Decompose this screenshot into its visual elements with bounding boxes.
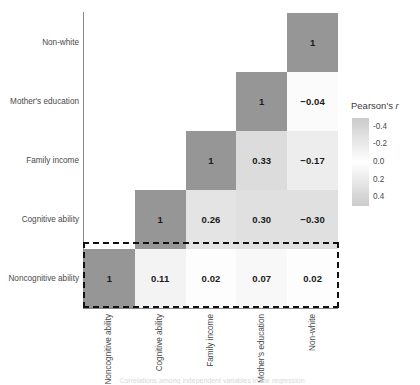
- heatmap-cell-value: 1: [208, 156, 213, 166]
- heatmap-cell: 1: [186, 131, 237, 190]
- legend-tick-label: 0.4: [373, 193, 384, 201]
- heatmap-cell: 0.11: [135, 249, 186, 308]
- y-axis-tick-label: Cognitive ability: [22, 216, 79, 224]
- x-axis-labels: Noncognitive abilityCognitive abilityFam…: [84, 312, 338, 382]
- heatmap-cell: 0.33: [236, 131, 287, 190]
- heatmap-cell: 1: [236, 72, 287, 131]
- heatmap-cell-value: 0.11: [151, 274, 169, 284]
- heatmap-cell: −0.30: [287, 190, 338, 249]
- heatmap-cell: 0.26: [186, 190, 237, 249]
- x-axis-tick-label: Family income: [207, 314, 215, 367]
- y-axis-tick-label: Mother's education: [10, 98, 79, 106]
- heatmap-cell: 1: [287, 13, 338, 72]
- correlation-heatmap-chart: Non-whiteMother's educationFamily income…: [0, 0, 420, 385]
- heatmap-cell: 0.07: [236, 249, 287, 308]
- heatmap-cell: −0.04: [287, 72, 338, 131]
- heatmap-cell-value: 0.07: [252, 274, 271, 284]
- x-axis-line: [83, 308, 338, 309]
- x-axis-tick-label: Noncognitive ability: [105, 314, 113, 385]
- heatmap-cell-value: 1: [107, 274, 112, 284]
- heatmap-cell-value: 0.30: [252, 215, 271, 225]
- heatmap-cell-value: 1: [259, 97, 264, 107]
- figure-caption: Correlations among independent variables…: [62, 377, 362, 384]
- x-axis-tick-slot: Cognitive ability: [134, 312, 186, 380]
- heatmap-cell-value: −0.30: [300, 215, 325, 225]
- legend-tick-labels: -0.4-0.20.00.20.4: [373, 116, 418, 208]
- y-axis-tick-label: Noncognitive ability: [8, 275, 79, 283]
- legend-tick-label: 0.2: [373, 176, 384, 184]
- heatmap-cell: −0.17: [287, 131, 338, 190]
- x-axis-tick-label: Mother's education: [258, 314, 266, 383]
- heatmap-cell-value: 1: [310, 38, 315, 48]
- legend-title: Pearson's r: [351, 100, 420, 111]
- heatmap-cell-value: −0.17: [300, 156, 325, 166]
- legend-body: -0.4-0.20.00.20.4: [351, 116, 420, 208]
- x-axis-tick-slot: Mother's education: [236, 312, 288, 380]
- y-axis-tick-label: Non-white: [42, 39, 79, 47]
- legend-title-variable: r: [396, 100, 399, 111]
- heatmap-grid: 11−0.0410.33−0.1710.260.30−0.3010.110.02…: [84, 13, 338, 308]
- y-axis-tick-label: Family income: [26, 157, 79, 165]
- x-axis-tick-slot: Family income: [185, 312, 237, 380]
- x-axis-tick-slot: Non-white: [287, 312, 339, 380]
- legend: Pearson's r -0.4-0.20.00.20.4: [351, 100, 420, 208]
- legend-tick-label: -0.4: [373, 123, 387, 131]
- heatmap-cell: 1: [135, 190, 186, 249]
- heatmap-cell: 0.02: [287, 249, 338, 308]
- y-axis-labels: Non-whiteMother's educationFamily income…: [0, 13, 79, 308]
- legend-tick-label: -0.2: [373, 140, 387, 148]
- x-axis-tick-label: Non-white: [308, 314, 316, 351]
- heatmap-cell-value: 0.02: [202, 274, 221, 284]
- heatmap-cell-value: 0.02: [303, 274, 322, 284]
- heatmap-cell-value: 0.26: [202, 215, 221, 225]
- heatmap-cell: 0.30: [236, 190, 287, 249]
- heatmap-cell-value: −0.04: [300, 97, 325, 107]
- legend-gradient-bar: [352, 118, 369, 206]
- heatmap-cell: 1: [84, 249, 135, 308]
- heatmap-cell-value: 0.33: [252, 156, 271, 166]
- heatmap-cell-value: 1: [158, 215, 163, 225]
- x-axis-tick-label: Cognitive ability: [156, 314, 164, 371]
- x-axis-tick-slot: Noncognitive ability: [83, 312, 135, 380]
- legend-tick-label: 0.0: [373, 158, 384, 166]
- heatmap-cell: 0.02: [186, 249, 237, 308]
